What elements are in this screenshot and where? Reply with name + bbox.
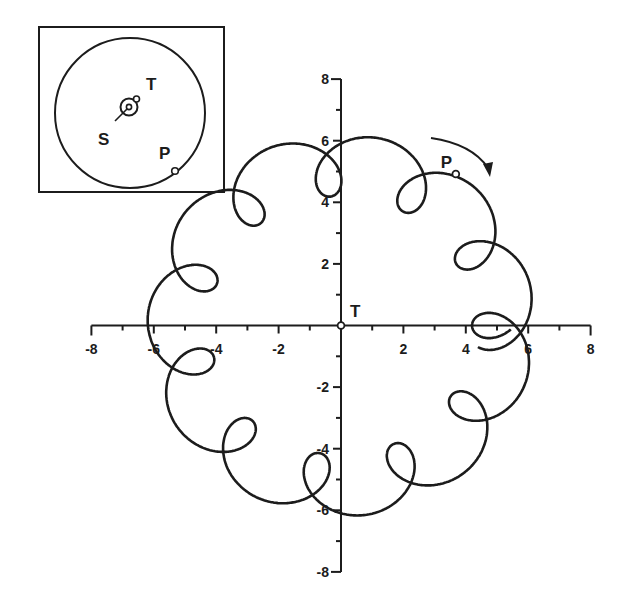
inset-label-s: S [98, 130, 109, 149]
x-tick-label: -8 [85, 341, 98, 357]
x-tick-label: -2 [272, 341, 285, 357]
p-planet-marker [452, 171, 459, 178]
inset-frame [39, 27, 224, 192]
x-tick-label: 2 [400, 341, 408, 357]
y-tick-label: 6 [321, 133, 329, 149]
label-p: P [441, 153, 452, 172]
inset-p-marker [172, 168, 179, 175]
inset-label-t: T [146, 75, 157, 94]
x-tick-label: 4 [462, 341, 470, 357]
inset-t-marker [134, 96, 140, 102]
y-tick-label: -2 [317, 379, 330, 395]
x-tick-label: 8 [587, 341, 595, 357]
label-t: T [350, 302, 361, 321]
y-tick-label: -8 [317, 564, 330, 580]
inset-label-p: P [159, 144, 170, 163]
y-tick-label: 8 [321, 71, 329, 87]
sun-s-marker [126, 104, 131, 109]
outer-orbit [55, 38, 205, 188]
y-tick-label: 2 [321, 256, 329, 272]
diagram-canvas: T S P -8-6-4-22468-8-6-4-22468 T P [0, 0, 622, 604]
t-origin-marker [338, 322, 345, 329]
inset-diagram: T S P [39, 27, 224, 192]
